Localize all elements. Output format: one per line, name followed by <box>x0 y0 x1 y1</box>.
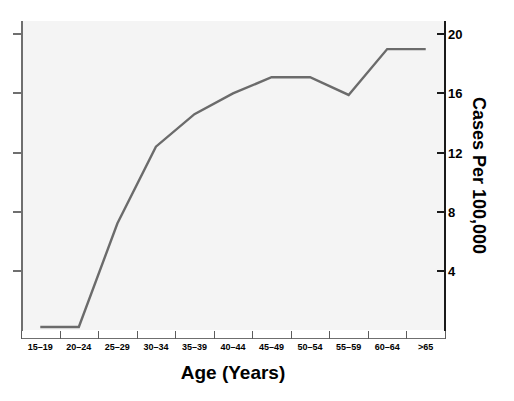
x-axis-tick <box>98 331 99 339</box>
left-axis-tick <box>13 270 22 272</box>
x-axis-tick-label: 60–64 <box>375 342 400 352</box>
x-axis-tick-label: 20–24 <box>66 342 91 352</box>
right-axis-tick-label: 8 <box>448 206 455 219</box>
right-axis-tick <box>437 152 445 154</box>
x-axis-tick <box>329 331 330 339</box>
x-axis-tick-label: 30–34 <box>143 342 168 352</box>
chart-title <box>0 0 514 3</box>
left-axis-tick <box>13 152 22 154</box>
x-axis-tick-label: 50–54 <box>298 342 323 352</box>
x-axis-tick <box>445 331 446 339</box>
bottom-axis-line <box>21 338 446 339</box>
x-axis-tick-label: 25–29 <box>105 342 130 352</box>
right-axis-tick <box>437 33 445 35</box>
left-axis-tick <box>13 33 22 35</box>
right-axis-tick-label: 16 <box>448 87 462 100</box>
x-axis-tick <box>214 331 215 339</box>
y-axis-title: Cases Per 100,000 <box>466 45 490 307</box>
x-axis-tick-label: 15–19 <box>28 342 53 352</box>
x-axis-tick-label: 35–39 <box>182 342 207 352</box>
x-axis-tick <box>291 331 292 339</box>
x-axis-tick <box>21 331 22 339</box>
x-axis-title: Age (Years) <box>21 362 445 384</box>
x-axis-tick <box>368 331 369 339</box>
plot-area <box>21 21 445 330</box>
right-axis-tick-label: 20 <box>448 28 462 41</box>
x-axis-tick-label: 55–59 <box>336 342 361 352</box>
x-axis-tick <box>60 331 61 339</box>
right-axis-tick <box>437 92 445 94</box>
right-axis-tick <box>437 211 445 213</box>
x-axis-tick <box>175 331 176 339</box>
right-axis-tick-label: 12 <box>448 147 462 160</box>
left-axis-line <box>21 21 23 331</box>
right-axis-line <box>444 21 446 331</box>
left-axis-tick <box>13 92 22 94</box>
right-axis-tick-label: 4 <box>448 265 455 278</box>
right-axis-tick <box>437 270 445 272</box>
x-axis-tick-label: >65 <box>418 342 433 352</box>
left-axis-tick <box>13 211 22 213</box>
chart-figure: 20161284 15–1920–2425–2930–3435–3940–444… <box>0 0 514 401</box>
x-axis-tick-label: 45–49 <box>259 342 284 352</box>
x-axis-tick <box>406 331 407 339</box>
x-axis-tick <box>252 331 253 339</box>
x-axis-tick <box>137 331 138 339</box>
x-axis-tick-label: 40–44 <box>220 342 245 352</box>
